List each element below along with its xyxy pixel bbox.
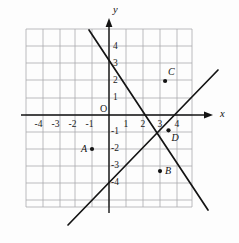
x-tick-label-1: 1 <box>124 120 129 130</box>
x-tick-label-neg4: -4 <box>35 120 43 130</box>
point-marker-d <box>166 128 170 132</box>
x-tick-label-4: 4 <box>175 120 180 130</box>
x-axis-label: x <box>220 109 225 120</box>
y-tick-label-2: 2 <box>113 76 118 86</box>
point-label-c: C <box>168 67 175 77</box>
x-tick-label-neg1: -1 <box>86 120 94 130</box>
point-marker-a <box>90 147 94 151</box>
point-label-a: A <box>81 144 87 154</box>
y-tick-label-3: 3 <box>113 59 118 69</box>
y-tick-label-1: 1 <box>113 93 118 103</box>
x-tick-label-2: 2 <box>141 120 146 130</box>
y-tick-label-neg4: -4 <box>111 178 119 188</box>
point-marker-c <box>163 79 167 83</box>
y-axis-label: y <box>113 5 118 16</box>
y-tick-label-neg3: -3 <box>111 161 119 171</box>
y-tick-label-neg1: -1 <box>111 127 119 137</box>
x-axis-arrow-icon <box>204 112 213 119</box>
x-tick-label-neg3: -3 <box>52 120 60 130</box>
point-label-d: D <box>172 133 179 143</box>
y-tick-label-neg2: -2 <box>111 144 119 154</box>
origin-label: O <box>100 104 107 114</box>
x-tick-label-neg2: -2 <box>69 120 77 130</box>
x-tick-label-3: 3 <box>158 120 163 130</box>
coordinate-plane-figure: -4-3-2-112344321-1-2-3-4 O x y ABCD <box>0 0 239 243</box>
y-tick-label-4: 4 <box>113 42 118 52</box>
y-axis-arrow-icon <box>106 18 113 27</box>
point-label-b: B <box>165 166 171 176</box>
point-marker-b <box>158 169 162 173</box>
